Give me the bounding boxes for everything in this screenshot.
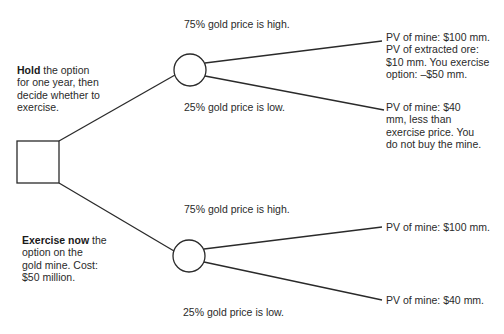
result-text: $10 mm. You exercise bbox=[386, 56, 490, 68]
result-text: PV of mine: $100 mm. bbox=[386, 31, 490, 43]
chance-node-hold bbox=[174, 54, 206, 86]
branch-label-exercise-now: Exercise now the option on the gold mine… bbox=[22, 234, 107, 284]
outcome-line-hold-high bbox=[205, 41, 382, 63]
branch-label-text: $50 million. bbox=[22, 271, 107, 283]
result-text: PV of mine: $100 mm. bbox=[386, 221, 490, 233]
branch-label-hold: Hold the option for one year, then decid… bbox=[17, 64, 100, 114]
outcome-result-exercise-high: PV of mine: $100 mm. bbox=[386, 221, 490, 233]
branch-label-text: gold mine. Cost: bbox=[22, 259, 107, 271]
result-text: PV of mine: $40 mm. bbox=[386, 294, 484, 306]
probability-label-exercise-high: 75% gold price is high. bbox=[184, 203, 290, 215]
outcome-result-exercise-low: PV of mine: $40 mm. bbox=[386, 294, 484, 306]
result-text: do not buy the mine. bbox=[386, 138, 481, 150]
result-text: mm, less than bbox=[386, 113, 481, 125]
decision-node-square bbox=[17, 141, 59, 183]
branch-label-text: decide whether to bbox=[17, 89, 100, 101]
branch-label-text: the option bbox=[40, 64, 89, 76]
result-text: exercise price. You bbox=[386, 126, 481, 138]
outcome-result-hold-low: PV of mine: $40 mm, less than exercise p… bbox=[386, 101, 481, 151]
decision-tree-diagram: Hold the option for one year, then decid… bbox=[0, 0, 504, 334]
branch-label-text: option on the bbox=[22, 246, 107, 258]
outcome-line-exercise-high bbox=[204, 227, 382, 249]
branch-label-exercise-bold: Exercise now bbox=[22, 234, 89, 246]
probability-label-hold-low: 25% gold price is low. bbox=[184, 101, 285, 113]
branch-label-hold-bold: Hold bbox=[17, 64, 40, 76]
branch-label-text: exercise. bbox=[17, 101, 100, 113]
outcome-line-exercise-low bbox=[204, 262, 382, 300]
outcome-result-hold-high: PV of mine: $100 mm. PV of extracted ore… bbox=[386, 31, 490, 81]
probability-label-exercise-low: 25% gold price is low. bbox=[183, 306, 284, 318]
result-text: PV of mine: $40 bbox=[386, 101, 481, 113]
branch-label-text: for one year, then bbox=[17, 76, 100, 88]
result-text: PV of extracted ore: bbox=[386, 43, 490, 55]
probability-label-hold-high: 75% gold price is high. bbox=[184, 18, 290, 30]
chance-node-exercise-now bbox=[173, 240, 205, 272]
branch-label-text: the bbox=[89, 234, 107, 246]
result-text: option: –$50 mm. bbox=[386, 68, 490, 80]
